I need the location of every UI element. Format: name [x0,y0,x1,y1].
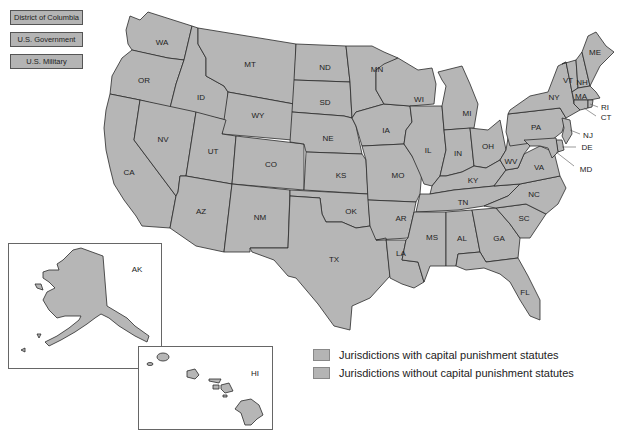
label-ia: IA [382,126,390,135]
label-sc: SC [518,214,529,223]
hawaii-inset: HI [138,346,273,430]
label-tn: TN [458,198,469,207]
legend-label-with: Jurisdictions with capital punishment st… [339,349,559,361]
label-id: ID [197,93,205,102]
us-military-box[interactable]: U.S. Military [10,54,83,69]
label-ut: UT [208,147,219,156]
label-mt: MT [244,60,256,69]
label-ca: CA [123,168,135,177]
label-oh: OH [482,142,494,151]
label-mo: MO [392,171,405,180]
label-mn: MN [371,65,384,74]
label-nm: NM [254,213,267,222]
label-ne: NE [322,134,333,143]
label-az: AZ [196,207,206,216]
label-de: DE [581,143,592,152]
label-nd: ND [319,63,331,72]
label-md: MD [580,165,593,174]
label-nc: NC [528,190,540,199]
label-vt: VT [563,76,573,85]
label-ny: NY [548,93,560,102]
label-ri: RI [601,103,609,112]
label-nh: NH [576,78,588,87]
state-ak[interactable] [43,248,149,346]
label-tx: TX [329,255,340,264]
label-il: IL [425,146,432,155]
label-wi: WI [414,95,424,104]
legend-swatch-without [313,367,330,379]
state-wi[interactable] [376,58,436,106]
label-va: VA [534,163,545,172]
label-ct: CT [601,113,612,122]
label-ms: MS [426,233,438,242]
label-wa: WA [156,38,169,47]
label-ks: KS [336,171,347,180]
state-mi[interactable] [438,66,478,130]
label-fl: FL [520,288,530,297]
label-nj: NJ [583,131,593,140]
us-government-box[interactable]: U.S. Government [10,32,83,47]
legend-label-without: Jurisdictions without capital punishment… [339,367,574,379]
legend-item-with: Jurisdictions with capital punishment st… [313,348,559,362]
label-wy: WY [252,111,266,120]
label-nv: NV [157,135,169,144]
label-al: AL [457,234,467,243]
state-ia[interactable] [352,104,412,146]
legend-item-without: Jurisdictions without capital punishment… [313,366,574,380]
label-ma: MA [575,92,588,101]
dc-box[interactable]: District of Columbia [10,10,83,25]
label-wv: WV [505,157,519,166]
label-in: IN [454,149,462,158]
label-sd: SD [319,98,330,107]
state-fl[interactable] [456,252,540,320]
label-pa: PA [531,123,542,132]
label-mi: MI [463,109,472,118]
label-la: LA [396,249,406,258]
label-me: ME [589,48,601,57]
label-ky: KY [468,176,479,185]
hawaii-map: HI [139,347,272,429]
label-ok: OK [345,207,357,216]
state-hi[interactable] [235,399,263,425]
legend-swatch-with [313,349,330,361]
label-or: OR [138,76,150,85]
label-hi: HI [251,369,259,378]
label-ga: GA [493,234,505,243]
label-ar: AR [395,214,406,223]
state-nj[interactable] [562,118,572,144]
label-co: CO [265,160,277,169]
label-ak: AK [132,265,143,274]
